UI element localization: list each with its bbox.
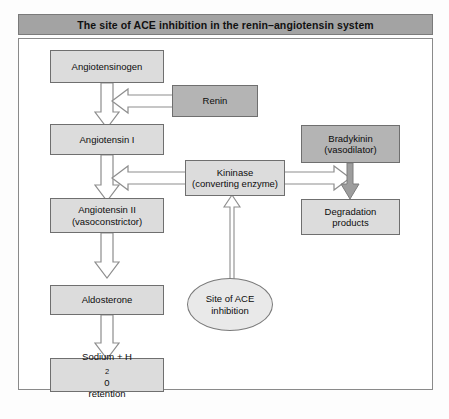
node-angiotensin-i-label: Angiotensin I bbox=[80, 134, 135, 145]
node-angiotensin-ii: Angiotensin II (vasoconstrictor) bbox=[50, 198, 164, 233]
node-degradation-products: Degradation products bbox=[301, 199, 400, 235]
node-sodium-retention-label-line2: retention bbox=[82, 388, 132, 399]
node-renin: Renin bbox=[172, 85, 258, 117]
sodium-retention-post: 0 bbox=[82, 377, 132, 388]
node-angiotensinogen-label: Angiotensinogen bbox=[72, 61, 143, 72]
edge-site-of-ace-to-kininase bbox=[224, 195, 240, 280]
node-degradation-products-label-line2: products bbox=[325, 217, 377, 228]
node-angiotensin-ii-label-line2: (vasoconstrictor) bbox=[72, 216, 142, 227]
node-aldosterone: Aldosterone bbox=[50, 285, 164, 315]
sodium-retention-pre: Sodium + H bbox=[82, 351, 132, 362]
node-angiotensin-ii-label-line1: Angiotensin II bbox=[72, 204, 142, 215]
node-kininase: Kininase (converting enzyme) bbox=[185, 160, 285, 196]
node-kininase-label-line2: (converting enzyme) bbox=[192, 178, 278, 189]
node-degradation-products-label-line1: Degradation bbox=[325, 206, 377, 217]
node-angiotensin-i: Angiotensin I bbox=[50, 124, 164, 155]
node-sodium-retention: Sodium + H20 retention bbox=[50, 358, 164, 392]
node-bradykinin-label-line2: (vasodilator) bbox=[324, 144, 376, 155]
node-sodium-retention-label-line1: Sodium + H20 bbox=[82, 351, 132, 388]
sodium-retention-subscript: 2 bbox=[105, 367, 109, 376]
edge-angiotensinogen-to-angiotensin-i bbox=[95, 83, 119, 128]
figure-root: The site of ACE inhibition in the renin–… bbox=[0, 0, 449, 419]
node-bradykinin-label-line1: Bradykinin bbox=[324, 133, 376, 144]
edge-kininase-to-angiotensin-i bbox=[112, 166, 186, 190]
node-site-of-ace-label-line1: Site of ACE bbox=[206, 293, 255, 304]
edge-angiotensin-ii-to-aldosterone bbox=[95, 233, 119, 278]
node-kininase-label-line1: Kininase bbox=[192, 167, 278, 178]
node-bradykinin: Bradykinin (vasodilator) bbox=[301, 125, 400, 163]
node-angiotensinogen: Angiotensinogen bbox=[50, 50, 164, 83]
node-renin-label: Renin bbox=[203, 95, 228, 106]
edge-kininase-to-degradation bbox=[284, 166, 350, 190]
node-site-of-ace-label-line2: inhibition bbox=[206, 305, 255, 316]
edge-renin-to-angiotensinogen-arrow bbox=[112, 89, 174, 113]
node-site-of-ace-inhibition: Site of ACE inhibition bbox=[187, 278, 273, 331]
node-aldosterone-label: Aldosterone bbox=[82, 294, 133, 305]
